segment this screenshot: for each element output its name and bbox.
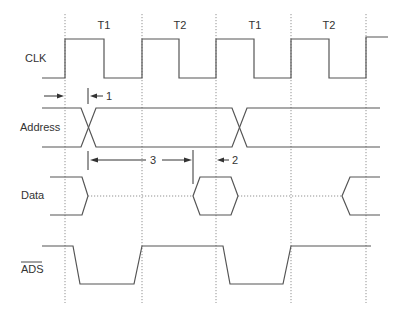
annotation-label-2: 2 [232, 154, 238, 166]
signal-label-address: Address [20, 121, 61, 133]
clk-waveform [42, 37, 388, 78]
data-waveform [50, 177, 380, 215]
cycle-labels: T1 T2 T1 T2 [98, 19, 336, 31]
signal-label-clk: CLK [25, 52, 47, 64]
timing-annotation-1: 1 [44, 88, 112, 104]
cycle-label-t1: T1 [98, 19, 111, 31]
address-waveform [42, 108, 380, 147]
cycle-label-t1-second: T1 [249, 19, 262, 31]
timing-diagram: T1 T2 T1 T2 CLK Address Data ADS 1 [0, 0, 402, 321]
signal-label-data: Data [21, 189, 45, 201]
signal-labels: CLK Address Data ADS [20, 52, 61, 275]
signal-label-ads: ADS [21, 263, 44, 275]
cycle-label-t2: T2 [174, 19, 187, 31]
annotation-label-3: 3 [150, 154, 156, 166]
cycle-label-t2-second: T2 [323, 19, 336, 31]
timing-annotation-2: 2 [217, 154, 238, 166]
timing-annotation-3: 3 [88, 150, 193, 184]
ads-waveform [42, 246, 371, 284]
annotation-label-1: 1 [106, 90, 112, 102]
